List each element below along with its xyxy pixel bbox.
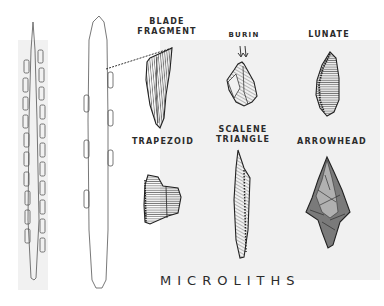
label-lunate: LUNATE — [302, 30, 356, 40]
composite-tool-wide — [84, 16, 113, 288]
blade-fragment — [146, 48, 172, 128]
label-blade-fragment-line1: BLADE — [137, 17, 197, 27]
label-arrowhead: ARROWHEAD — [290, 137, 374, 147]
label-scalene-line1: SCALENE — [204, 125, 282, 135]
burin — [227, 62, 257, 106]
burin-arrows-icon — [238, 46, 248, 57]
label-burin: BURIN — [222, 30, 266, 40]
diagram-title: MICROLITHS — [160, 273, 300, 288]
scalene-triangle — [234, 150, 250, 258]
arrowhead — [306, 157, 350, 248]
label-trapezoid: TRAPEZOID — [128, 137, 198, 147]
trapezoid — [144, 175, 181, 224]
label-blade-fragment-line2: FRAGMENT — [137, 27, 197, 37]
label-scalene-line2: TRIANGLE — [204, 135, 282, 145]
microliths-illustration — [0, 0, 384, 306]
label-blade-fragment: BLADE FRAGMENT — [137, 17, 197, 37]
label-scalene-triangle: SCALENE TRIANGLE — [204, 125, 282, 145]
composite-tool-slender — [23, 22, 45, 280]
lunate — [316, 52, 339, 116]
